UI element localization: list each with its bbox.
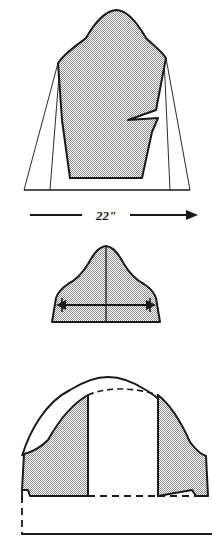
right-arrow-icon bbox=[186, 210, 198, 220]
spread-segment-right bbox=[158, 395, 208, 496]
body-block-shape bbox=[58, 10, 166, 178]
measurement-label-body-width: 22" bbox=[95, 208, 116, 223]
spread-line-left-outer bbox=[24, 63, 58, 190]
spread-segment-left bbox=[22, 395, 88, 496]
pattern-figure-sheet: 22" bbox=[0, 0, 212, 544]
diagram-body-block bbox=[0, 0, 212, 200]
measurement-row-body-width: 22" bbox=[0, 200, 212, 230]
diagram-sleeve-cap bbox=[0, 238, 212, 350]
diagram-spread-cap bbox=[0, 360, 212, 544]
